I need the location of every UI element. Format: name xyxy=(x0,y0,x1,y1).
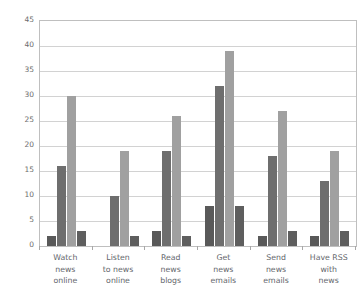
bar xyxy=(320,181,329,246)
x-axis-tick-mark xyxy=(250,246,251,250)
x-axis-category-label-line: news xyxy=(302,275,355,287)
x-axis-category-label-line: news xyxy=(197,264,250,276)
bar-group xyxy=(145,21,198,246)
x-axis-category-label-line: Get xyxy=(197,252,250,264)
x-axis-category-label-line: Have RSS xyxy=(302,252,355,264)
x-axis-category-label: Have RSSwithnews xyxy=(302,252,355,300)
bar xyxy=(130,236,139,246)
bar-groups xyxy=(40,21,356,246)
y-axis-tick-label: 0 xyxy=(12,241,34,249)
x-axis-category-label-line: news xyxy=(144,264,197,276)
bar xyxy=(268,156,277,246)
bar-chart: 051015202530354045 WatchnewsonlineListen… xyxy=(0,0,360,302)
x-axis-tick-mark xyxy=(144,246,145,250)
x-axis-tick-mark xyxy=(92,246,93,250)
y-axis-tick-label: 45 xyxy=(12,16,34,24)
x-axis-category-label-line: news xyxy=(39,264,92,276)
x-axis-category-label: Readnewsblogs xyxy=(144,252,197,300)
bar xyxy=(310,236,319,246)
x-axis-category-label-line: with xyxy=(302,264,355,276)
x-axis-category-label-line: Watch xyxy=(39,252,92,264)
x-axis-tick-mark xyxy=(39,246,40,250)
x-axis-tick-mark xyxy=(197,246,198,250)
y-axis-tick-label: 35 xyxy=(12,66,34,74)
bar xyxy=(278,111,287,246)
x-axis-tick-mark xyxy=(302,246,303,250)
x-axis-category-label-line: online xyxy=(92,275,145,287)
y-axis-tick-label: 25 xyxy=(12,116,34,124)
bar xyxy=(57,166,66,246)
bar xyxy=(47,236,56,246)
y-axis-tick-label: 10 xyxy=(12,191,34,199)
x-axis-category-label-line: news xyxy=(250,264,303,276)
x-axis-category-label-line: emails xyxy=(197,275,250,287)
bar xyxy=(110,196,119,246)
plot-area xyxy=(39,20,357,247)
bar-group xyxy=(198,21,251,246)
bar xyxy=(288,231,297,246)
x-axis-category-label-line: Send xyxy=(250,252,303,264)
x-axis-category-label: Getnewsemails xyxy=(197,252,250,300)
y-axis-tick-label: 30 xyxy=(12,91,34,99)
bar xyxy=(162,151,171,246)
x-axis-category-label-line: blogs xyxy=(144,275,197,287)
x-axis-category-label-line: online xyxy=(39,275,92,287)
y-axis-tick-label: 5 xyxy=(12,216,34,224)
x-axis-tick-marks xyxy=(39,246,357,251)
bar xyxy=(67,96,76,246)
x-axis-labels: WatchnewsonlineListento newsonlineReadne… xyxy=(39,252,355,300)
x-axis-category-label-line: Listen xyxy=(92,252,145,264)
y-axis-tick-label: 20 xyxy=(12,141,34,149)
bar xyxy=(215,86,224,246)
x-axis-tick-mark xyxy=(355,246,356,250)
bar xyxy=(120,151,129,246)
x-axis-category-label: Sendnewsemails xyxy=(250,252,303,300)
bar xyxy=(77,231,86,246)
bar xyxy=(235,206,244,246)
bar xyxy=(182,236,191,246)
bar xyxy=(152,231,161,246)
bar-group xyxy=(303,21,356,246)
bar xyxy=(330,151,339,246)
bar xyxy=(340,231,349,246)
x-axis-category-label-line: emails xyxy=(250,275,303,287)
x-axis-category-label: Listento newsonline xyxy=(92,252,145,300)
y-axis-tick-label: 15 xyxy=(12,166,34,174)
bar xyxy=(205,206,214,246)
bar xyxy=(172,116,181,246)
bar-group xyxy=(40,21,93,246)
y-axis-tick-label: 40 xyxy=(12,41,34,49)
x-axis-category-label-line: Read xyxy=(144,252,197,264)
bar-group xyxy=(251,21,304,246)
chart-title-remnant xyxy=(70,0,300,4)
bar-group xyxy=(93,21,146,246)
y-axis: 051015202530354045 xyxy=(12,14,34,249)
bar xyxy=(225,51,234,246)
x-axis-category-label: Watchnewsonline xyxy=(39,252,92,300)
bar xyxy=(258,236,267,246)
x-axis-category-label-line: to news xyxy=(92,264,145,276)
